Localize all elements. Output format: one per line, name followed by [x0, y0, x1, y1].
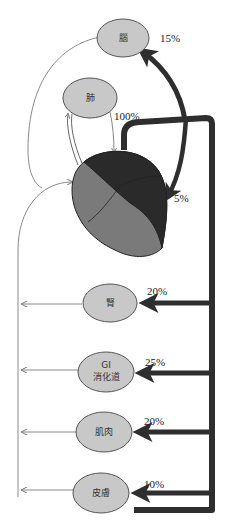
brain-artery [143, 52, 185, 120]
kidney-percent: 20% [147, 285, 167, 297]
skin-percent: 10% [144, 478, 164, 490]
muscle-label: 肌肉 [95, 426, 113, 437]
lung-label: 肺 [86, 93, 95, 103]
coronary-artery [168, 118, 186, 196]
organ-brain: 腦 15% [97, 19, 180, 57]
cardiac-output-distribution-diagram: 腦 15% 肺 100% 5% 腎 20% GI 消化道 25% 肌肉 20% … [0, 0, 230, 527]
heart [72, 151, 167, 256]
kidney-label: 腎 [106, 298, 115, 308]
muscle-percent: 20% [144, 415, 164, 427]
heart-percent: 5% [174, 192, 189, 204]
organ-lung: 肺 100% [63, 78, 140, 122]
gi-percent: 25% [145, 356, 165, 368]
brain-label: 腦 [119, 32, 128, 43]
gi-label-line2: 消化道 [93, 371, 120, 382]
gi-label-line1: GI [101, 360, 111, 370]
brain-percent: 15% [160, 32, 180, 44]
skin-label: 皮膚 [92, 487, 110, 498]
lung-percent: 100% [114, 110, 140, 122]
systemic-venous-trunk [18, 182, 72, 497]
pulmonary-artery-line [67, 114, 78, 165]
pulmonary-artery-line-2 [71, 114, 82, 163]
